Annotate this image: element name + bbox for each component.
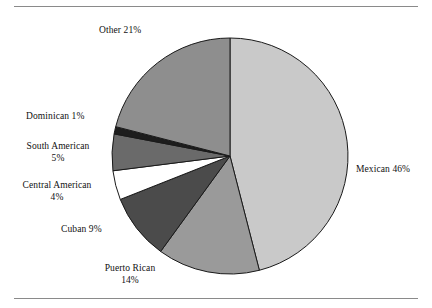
pie-label-mexican-name: Mexican 46% bbox=[356, 164, 410, 174]
pie-label-other: Other 21% bbox=[99, 24, 141, 36]
pie-label-cuban: Cuban 9% bbox=[61, 223, 102, 235]
pie-label-south-american-name: South American bbox=[27, 141, 90, 151]
bottom-horizontal-rule bbox=[14, 298, 418, 299]
pie-label-puerto-rican: Puerto Rican 14% bbox=[87, 262, 173, 286]
pie-label-dominican: Dominican 1% bbox=[26, 110, 84, 122]
pie-label-mexican: Mexican 46% bbox=[356, 163, 410, 175]
pie-label-cuban-name: Cuban 9% bbox=[61, 224, 102, 234]
pie-slice-group bbox=[112, 38, 348, 274]
pie-chart: Mexican 46% Other 21% Dominican 1% South… bbox=[0, 0, 432, 308]
pie-label-puerto-rican-name: Puerto Rican bbox=[105, 263, 156, 273]
pie-label-other-name: Other 21% bbox=[99, 25, 141, 35]
pie-label-south-american: South American 5% bbox=[12, 140, 104, 164]
pie-label-central-american: Central American 4% bbox=[8, 179, 106, 203]
pie-label-central-american-pct: 4% bbox=[8, 191, 106, 203]
pie-label-south-american-pct: 5% bbox=[12, 152, 104, 164]
pie-label-puerto-rican-pct: 14% bbox=[87, 274, 173, 286]
figure-container: Mexican 46% Other 21% Dominican 1% South… bbox=[0, 0, 432, 308]
pie-label-dominican-name: Dominican 1% bbox=[26, 111, 84, 121]
pie-label-central-american-name: Central American bbox=[23, 180, 92, 190]
